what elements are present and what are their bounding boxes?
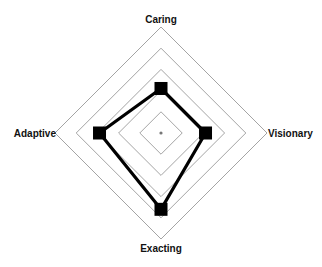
center-dot	[159, 131, 162, 134]
data-marker	[199, 127, 212, 140]
data-marker	[155, 203, 168, 216]
axis-label-exacting: Exacting	[140, 243, 182, 254]
data-marker	[155, 82, 168, 95]
series-polygon	[100, 88, 206, 209]
data-marker	[93, 127, 106, 140]
axis-label-caring: Caring	[145, 14, 177, 25]
radar-chart: Caring Visionary Exacting Adaptive	[0, 0, 322, 267]
axis-label-adaptive: Adaptive	[14, 128, 57, 139]
axis-label-visionary: Visionary	[268, 128, 313, 139]
